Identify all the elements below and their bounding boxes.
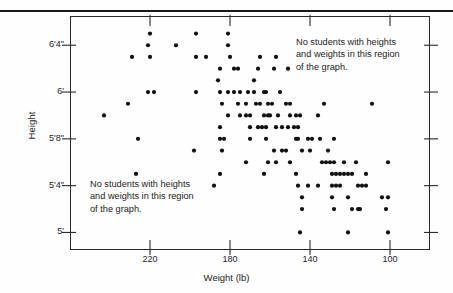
upper-right-region-annotation: No students with heights and weights in … — [296, 36, 446, 73]
x-tick-label: 100 — [367, 254, 413, 264]
x-axis-title: Weight (lb) — [0, 272, 453, 283]
y-tick-label: 5' — [22, 226, 64, 236]
x-tick-label: 220 — [127, 254, 173, 264]
y-axis-tick-labels: 6'4"6'5'8"5'4"5' — [12, 0, 64, 293]
chart-canvas: 6'4"6'5'8"5'4"5' 220180140100 Height Wei… — [0, 0, 453, 293]
lower-left-region-annotation: No students with heights and weights in … — [90, 178, 250, 215]
y-axis-title: Height — [26, 86, 37, 166]
y-tick-label: 5'4" — [22, 180, 64, 190]
x-tick-label: 140 — [287, 254, 333, 264]
top-horizontal-rule — [0, 10, 453, 12]
y-tick-label: 6'4" — [22, 39, 64, 49]
x-tick-label: 180 — [207, 254, 253, 264]
